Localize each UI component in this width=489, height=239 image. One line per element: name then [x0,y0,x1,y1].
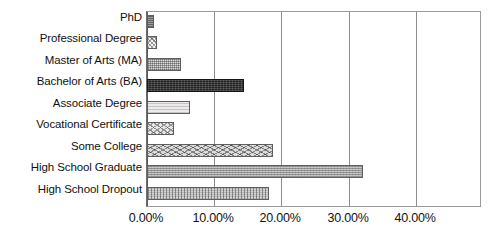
category-label-high-school-graduate: High School Graduate [0,161,142,174]
category-label-high-school-dropout: High School Dropout [0,183,142,196]
category-label-professional-degree: Professional Degree [0,32,142,45]
bar-phd [147,15,154,28]
category-label-phd: PhD [0,11,142,24]
xtick-label-20: 20.00% [259,210,300,226]
bar-high-school-graduate [147,165,363,178]
xtick-label-30: 30.00% [327,210,368,226]
bar-associate-degree [147,101,190,114]
xtick-label-10: 10.00% [192,210,233,226]
category-label-master-of-arts: Master of Arts (MA) [0,54,142,67]
category-label-some-college: Some College [0,140,142,153]
bar-high-school-dropout [147,187,269,200]
bar-vocational-certificate [147,122,174,135]
bar-chart: PhD Professional Degree Master of Arts (… [0,0,489,239]
category-axis: PhD Professional Degree Master of Arts (… [0,11,142,207]
category-label-vocational-certificate: Vocational Certificate [0,118,142,131]
category-label-bachelor-of-arts: Bachelor of Arts (BA) [0,75,142,88]
plot-area [146,11,481,207]
xtick-label-0: 0.00% [129,210,163,226]
category-label-associate-degree: Associate Degree [0,97,142,110]
bar-master-of-arts [147,58,181,71]
bar-bachelor-of-arts [147,79,244,92]
bar-professional-degree [147,36,157,49]
value-axis: 0.00% 10.00% 20.00% 30.00% 40.00% [0,210,489,234]
xtick-label-40: 40.00% [394,210,435,226]
bar-some-college [147,144,273,157]
gridline-40 [416,12,417,206]
